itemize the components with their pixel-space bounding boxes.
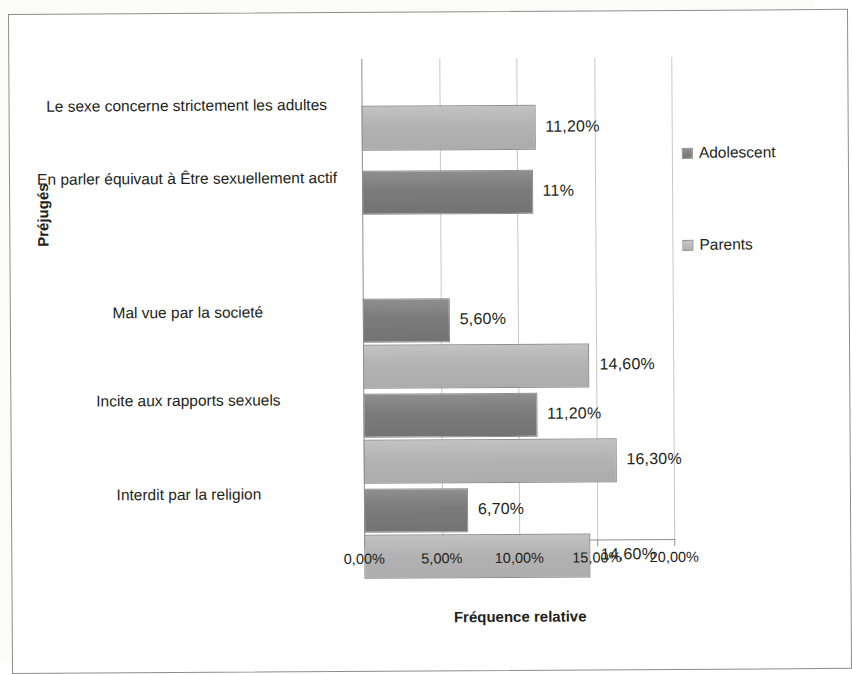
bar[interactable]	[364, 488, 468, 533]
bar[interactable]	[364, 438, 617, 484]
bar[interactable]	[363, 343, 590, 388]
category-axis-labels: Le sexe concerne strictement les adultes…	[19, 59, 354, 543]
bar-value-label: 16,30%	[626, 450, 682, 468]
y-axis-title: Préjugés	[34, 183, 51, 246]
legend-entry[interactable]: Adolescent	[682, 142, 812, 163]
x-axis-tick-label: 20,00%	[650, 549, 699, 565]
category-label: Mal vue par la societé	[23, 301, 353, 324]
category-label: En parler équivaut à Être sexuellement a…	[22, 167, 352, 190]
category-label: Incite aux rapports sexuels	[23, 389, 353, 412]
bar[interactable]	[363, 298, 450, 343]
x-axis-tick	[597, 539, 598, 546]
legend-entry[interactable]: Parents	[682, 234, 812, 255]
bar[interactable]	[362, 105, 536, 151]
bar-value-label: 14,60%	[599, 355, 655, 373]
x-axis-title: Fréquence relative	[365, 607, 676, 626]
category-label: Le sexe concerne strictement les adultes	[22, 94, 352, 117]
category-label: Interdit par la religion	[24, 483, 354, 506]
x-axis-tick-label: 15,00%	[572, 549, 621, 565]
chart-legend: AdolescentParents	[682, 142, 813, 327]
bar[interactable]	[362, 170, 533, 215]
x-axis-tick	[674, 539, 675, 546]
legend-swatch-icon	[682, 147, 693, 158]
x-axis-tick-labels: 0,00%5,00%10,00%15,00%20,00%	[364, 549, 675, 575]
x-axis-tick-label: 5,00%	[421, 550, 462, 566]
chart-frame: Le sexe concerne strictement les adultes…	[8, 9, 852, 674]
bar-value-label: 5,60%	[460, 310, 506, 328]
legend-label: Parents	[699, 235, 753, 253]
bar[interactable]	[363, 393, 537, 438]
x-axis-tick-label: 0,00%	[344, 551, 385, 567]
bar-value-label: 11,20%	[547, 404, 601, 422]
plot-area: 11,20%11%5,60%14,60%11,20%16,30%6,70%14,…	[361, 57, 674, 541]
legend-swatch-icon	[682, 239, 693, 250]
bar-value-label: 11,20%	[545, 117, 599, 135]
bar-value-label: 6,70%	[478, 500, 524, 518]
bar-value-label: 11%	[543, 182, 575, 200]
legend-label: Adolescent	[699, 143, 776, 161]
x-axis-tick-label: 10,00%	[495, 550, 544, 566]
